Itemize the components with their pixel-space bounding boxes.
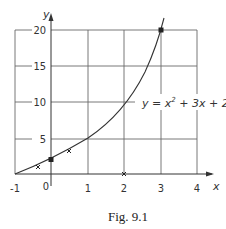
equation-label: y = x2 + 3x + 2 [141,96,226,110]
y-tick-15: 15 [33,60,46,73]
y-tick-10: 10 [33,96,46,109]
cross-marker [67,149,71,153]
y-tick-20: 20 [33,24,46,37]
square-marker [159,28,163,32]
x-tick-labels: -1 0 1 2 3 4 [10,180,200,195]
x-tick-0: 0 [43,180,49,193]
y-axis-label: y [42,8,50,21]
cross-marker [36,165,40,169]
x-tick-2: 2 [121,182,127,195]
chart: 20 15 10 5 -1 0 1 2 3 4 y x y = x2 + 3x … [0,0,226,229]
x-tick-1: 1 [85,182,91,195]
figure-caption: Fig. 9.1 [108,209,148,224]
equation-main: y = x [141,97,172,110]
x-tick-4: 4 [194,182,200,195]
square-marker [49,158,53,162]
x-tick-neg1: -1 [10,182,20,195]
x-tick-3: 3 [158,182,164,195]
y-tick-5: 5 [40,133,46,146]
y-tick-labels: 20 15 10 5 [33,24,46,146]
x-axis-arrow-icon [206,172,214,177]
equation-rest: + 3x + 2 [176,97,226,110]
x-axis-label: x [212,180,220,193]
